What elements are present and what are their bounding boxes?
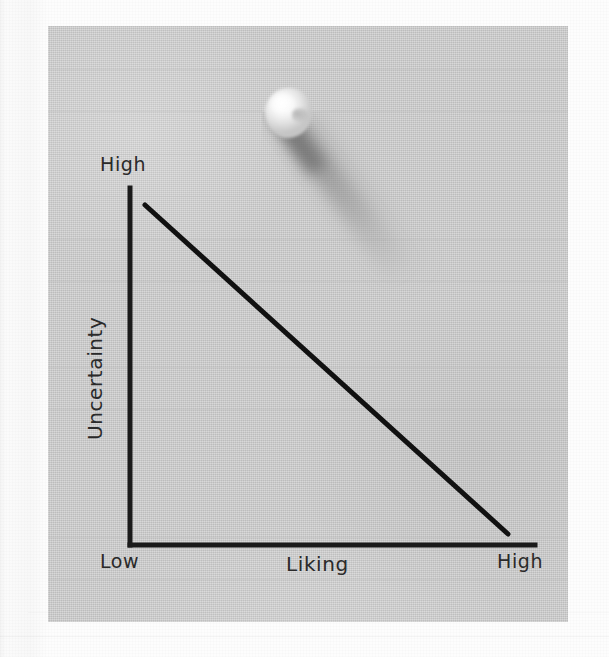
rule-line — [48, 409, 568, 410]
y-axis-high-label: High — [100, 153, 146, 175]
y-axis-title: Uncertainty — [83, 317, 107, 440]
pushpin-highlight-icon — [272, 94, 294, 114]
x-axis-low-label: Low — [100, 550, 139, 572]
rule-line — [48, 196, 568, 197]
rule-line — [48, 324, 568, 325]
frame-seam-lower — [0, 636, 609, 637]
rule-line — [48, 281, 568, 282]
rule-line — [48, 494, 568, 495]
rule-line — [48, 367, 568, 368]
x-axis-high-label: High — [497, 550, 543, 572]
rule-line — [48, 239, 568, 240]
rule-line — [48, 452, 568, 453]
pushpin-notch-icon — [292, 108, 308, 122]
x-axis-title: Liking — [286, 552, 349, 576]
rule-line — [48, 537, 568, 538]
rule-line — [48, 69, 568, 70]
figure-canvas: High Uncertainty Low Liking High — [0, 0, 609, 657]
rule-line — [48, 579, 568, 580]
